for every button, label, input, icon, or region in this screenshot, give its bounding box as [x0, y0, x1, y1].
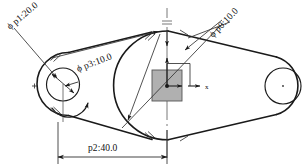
construction-diagonal-line [122, 24, 222, 128]
dimension-label-p2: p2:40.0 [88, 143, 118, 153]
x-axis-label: x [205, 83, 209, 91]
dimension-label-p0: ϕ p0:10.0 [207, 6, 240, 40]
engineering-drawing-svg: x ϕ p1:20. [0, 0, 306, 168]
lower-left-tangent-edge [69, 116, 153, 140]
right-boss-center-dot [282, 85, 284, 87]
origin-point [165, 84, 169, 88]
upper-right-tangent-edge [168, 31, 277, 57]
left-boss-radius-arrow-line [65, 82, 78, 86]
dimension-label-p1: ϕ p1:20.0 [5, 0, 40, 32]
upper-left-tangent-edge [69, 32, 153, 53]
dimension-label-p3: ϕ p3:10.0 [75, 51, 113, 74]
p1-leader-line [14, 28, 57, 78]
lower-right-tangent-edge [168, 115, 277, 140]
right-boss-outer-arc [277, 57, 298, 115]
technical-drawing-canvas: x ϕ p1:20. [0, 0, 306, 168]
